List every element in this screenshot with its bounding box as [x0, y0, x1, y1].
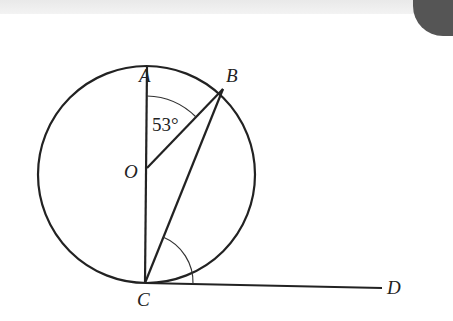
label-c: C [137, 289, 150, 310]
angle-arc-bcd [163, 237, 193, 284]
label-o: O [124, 161, 138, 182]
label-d: D [386, 277, 401, 298]
label-b: B [226, 65, 238, 86]
label-a: A [137, 65, 151, 86]
segment-cd [145, 283, 382, 288]
angle-label-aob: 53° [152, 114, 179, 135]
segment-ac [145, 66, 147, 283]
